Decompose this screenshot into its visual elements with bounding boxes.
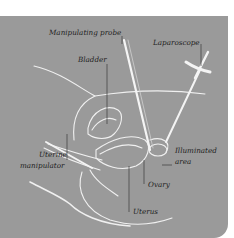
laparoscopy-diagram: Manipulating probe Laparoscope Bladder I… — [0, 0, 234, 238]
label-laparoscope: Laparoscope — [152, 38, 200, 47]
rectum-line — [90, 170, 118, 196]
manipulating-probe-edge — [128, 40, 153, 148]
label-uterine-manipulator-1: Uterine — [39, 150, 67, 159]
uterus-inner — [100, 145, 142, 154]
label-uterus: Uterus — [133, 207, 158, 216]
laparoscope-shaft — [166, 70, 200, 142]
manipulating-probe-shaft — [124, 40, 150, 150]
label-uterine-manipulator-2: manipulator — [20, 161, 65, 170]
label-illuminated-area-2: area — [175, 157, 191, 166]
label-ovary: Ovary — [148, 180, 171, 189]
uterus-shape — [96, 137, 148, 169]
laparoscope-eyepiece — [195, 52, 208, 78]
ovary-shape — [149, 144, 167, 156]
label-manipulating-probe: Manipulating probe — [48, 28, 121, 37]
bladder-shape — [88, 108, 121, 139]
label-bladder: Bladder — [77, 55, 107, 64]
label-illuminated-area-1: Illuminated — [174, 146, 217, 155]
abdominal-wall — [34, 66, 205, 96]
bladder-inner — [92, 118, 116, 130]
